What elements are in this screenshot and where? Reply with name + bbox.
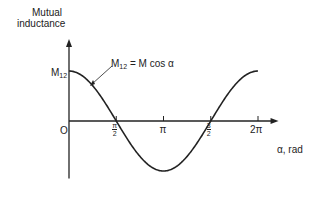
x-tick-label: 32: [207, 122, 211, 137]
tick-denominator: 2: [207, 130, 211, 137]
y-axis-arrow: [66, 39, 72, 47]
y-max-label-sub: 12: [59, 72, 67, 79]
plot-area: [0, 0, 318, 211]
tick-numerator: 3: [207, 122, 211, 130]
annotation-leader: [92, 66, 112, 84]
y-axis-label-line1: Mutual: [32, 7, 62, 18]
y-max-label: M12: [51, 67, 67, 81]
curve-annotation: M12 = M cos α: [111, 58, 174, 72]
annotation-rhs: = M cos α: [130, 58, 174, 69]
x-tick-label: 2π: [250, 124, 262, 135]
tick-denominator: 2: [112, 130, 117, 137]
x-axis-arrow: [271, 118, 279, 124]
x-tick-label: π: [160, 124, 167, 135]
tick-numerator: π: [112, 122, 117, 130]
x-axis-label: α, rad: [277, 144, 303, 155]
y-axis-label-line2: inductance: [17, 18, 65, 29]
origin-label: O: [60, 125, 68, 136]
annotation-sub: 12: [119, 63, 127, 70]
x-tick-label: π2: [112, 122, 117, 137]
